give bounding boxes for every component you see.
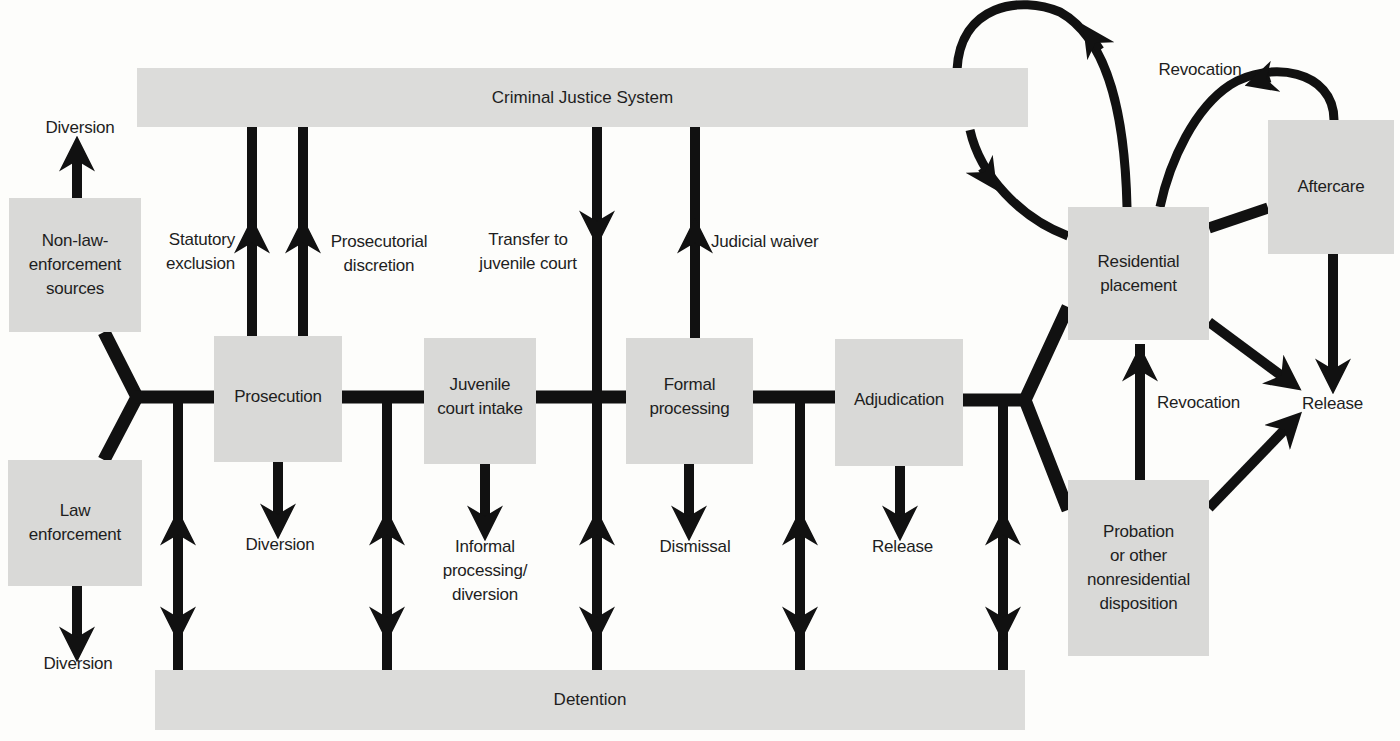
criminal-justice-system-label: Criminal Justice System — [492, 88, 673, 108]
node-prosecution: Prosecution — [214, 336, 342, 462]
label-adjudication-release: Release — [860, 535, 945, 559]
label-prosecution-diversion: Diversion — [235, 533, 325, 557]
label-final-release: Release — [1290, 392, 1375, 416]
node-label: Prosecution — [234, 385, 322, 409]
label-dismissal: Dismissal — [645, 535, 745, 559]
label-diversion-top: Diversion — [35, 116, 125, 140]
node-aftercare: Aftercare — [1268, 120, 1394, 254]
node-label: Probation or other nonresidential dispos… — [1087, 520, 1190, 616]
node-residential-placement: Residential placement — [1068, 207, 1209, 340]
node-label: Adjudication — [854, 388, 944, 412]
juvenile-justice-flow-diagram: Criminal Justice System Detention Non-la… — [0, 0, 1400, 741]
label-informal-processing: Informal processing/ diversion — [425, 535, 545, 607]
label-statutory-exclusion: Statutory exclusion — [150, 228, 235, 276]
node-formal-processing: Formal processing — [626, 338, 753, 464]
node-label: Juvenile court intake — [437, 373, 522, 421]
node-label: Residential placement — [1098, 250, 1180, 298]
node-non-law-enforcement-sources: Non-law- enforcement sources — [9, 198, 141, 332]
node-juvenile-court-intake: Juvenile court intake — [424, 338, 536, 464]
detention-label: Detention — [554, 690, 627, 710]
label-revocation-mid: Revocation — [1157, 391, 1267, 415]
label-diversion-bottom: Diversion — [33, 652, 123, 676]
node-label: Non-law- enforcement sources — [29, 229, 121, 301]
node-probation: Probation or other nonresidential dispos… — [1068, 480, 1209, 656]
label-revocation-top: Revocation — [1145, 58, 1255, 82]
node-label: Law enforcement — [29, 499, 121, 547]
node-label: Aftercare — [1297, 175, 1364, 199]
node-adjudication: Adjudication — [835, 339, 963, 466]
node-label: Formal processing — [649, 373, 729, 421]
detention-bar: Detention — [155, 670, 1025, 730]
label-transfer-to-juvenile-court: Transfer to juvenile court — [468, 228, 588, 276]
label-judicial-waiver: Judicial waiver — [711, 230, 841, 254]
criminal-justice-system-bar: Criminal Justice System — [137, 68, 1028, 127]
label-prosecutorial-discretion: Prosecutorial discretion — [319, 230, 439, 278]
node-law-enforcement: Law enforcement — [8, 460, 142, 586]
